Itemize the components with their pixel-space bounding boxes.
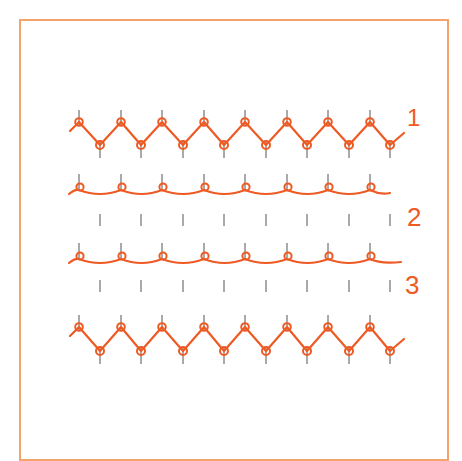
- yarn-strand-2: [69, 190, 390, 194]
- yarn-strand-3: [69, 259, 401, 263]
- row-label-2: 2: [407, 202, 421, 233]
- row-label-1: 1: [407, 104, 420, 132]
- row-label-3: 3: [405, 270, 419, 301]
- stitch-diagram: [0, 0, 462, 461]
